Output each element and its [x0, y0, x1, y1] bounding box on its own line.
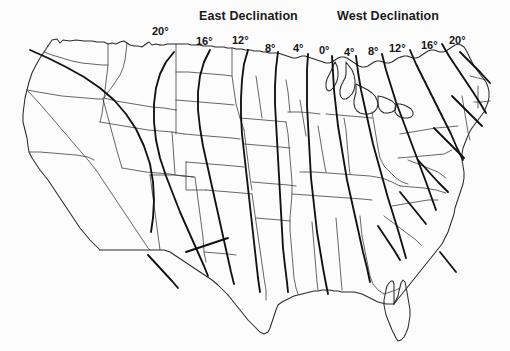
west-declination-heading: West Declination [337, 9, 439, 23]
declination-map-figure: East Declination West Declination 20° 16… [0, 0, 510, 351]
isoline-label-west-12: 12° [389, 42, 406, 54]
isoline-label-west-8: 8° [368, 45, 379, 57]
isoline-label-east-20: 20° [152, 25, 169, 37]
isoline-east-4 [275, 52, 288, 292]
isoline-ne-segment-c [434, 128, 464, 158]
isoline-sw-segment-h [148, 255, 178, 288]
isoline-label-west-4: 4° [344, 46, 355, 58]
isoline-agonic-0 [307, 54, 328, 294]
isoline-label-west-16: 16° [421, 39, 438, 51]
us-national-outline [23, 39, 489, 341]
isogonic-lines [30, 44, 490, 294]
isoline-label-east-12: 12° [232, 34, 249, 46]
isoline-east-12 [198, 50, 234, 284]
isoline-east-20 [30, 50, 154, 232]
isoline-west-8 [356, 56, 406, 258]
isoline-label-east-4: 4° [293, 42, 304, 54]
map-graphic [0, 0, 510, 351]
great-lakes [326, 62, 413, 118]
isoline-east-16 [154, 52, 208, 276]
isoline-label-west-20: 20° [449, 34, 466, 46]
isoline-se-segment-f [378, 226, 400, 260]
east-declination-heading: East Declination [199, 9, 298, 23]
isoline-sw-segment-i [440, 252, 456, 272]
state-boundaries [27, 43, 490, 300]
isoline-ne-segment-e [400, 192, 426, 224]
isoline-label-east-8: 8° [265, 42, 276, 54]
isoline-label-east-16: 16° [196, 35, 213, 47]
isoline-label-west-0: 0° [319, 44, 330, 56]
